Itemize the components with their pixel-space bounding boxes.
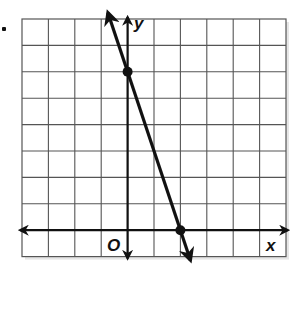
x-axis-label: x (266, 236, 275, 256)
y-axis-label: y (134, 14, 143, 34)
grid-lines (22, 19, 289, 260)
coordinate-plane (0, 0, 295, 313)
origin-label: O (107, 236, 120, 256)
